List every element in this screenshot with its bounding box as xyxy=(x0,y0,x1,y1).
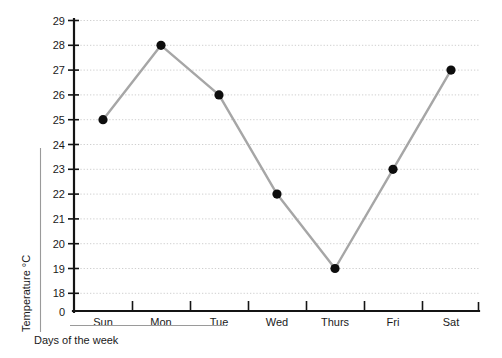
x-tick-label-fri: Fri xyxy=(387,316,400,328)
gridlines-group xyxy=(74,21,480,294)
chart-canvas: 29 28 27 26 25 24 23 22 21 20 19 18 0 Su… xyxy=(0,0,502,358)
y-axis-title: Temperature °C xyxy=(20,255,32,332)
y-tick-label-20: 20 xyxy=(53,238,65,250)
data-point-sun xyxy=(98,115,107,124)
x-tick-label-thurs: Thurs xyxy=(321,316,350,328)
x-tick-label-tue: Tue xyxy=(210,316,229,328)
y-tick-label-23: 23 xyxy=(53,163,65,175)
y-tick-label-25: 25 xyxy=(53,114,65,126)
y-axis-group: 29 28 27 26 25 24 23 22 21 20 19 18 0 xyxy=(53,15,79,319)
temperature-series-line xyxy=(103,45,451,268)
y-tick-label-zero: 0 xyxy=(59,306,65,318)
x-tick-label-sat: Sat xyxy=(443,316,460,328)
y-tick-label-21: 21 xyxy=(53,213,65,225)
axis-titles-group: Temperature °C Days of the week xyxy=(20,148,226,346)
data-point-wed xyxy=(272,190,281,199)
data-point-thurs xyxy=(330,264,339,273)
y-tick-label-24: 24 xyxy=(53,139,65,151)
y-tick-label-26: 26 xyxy=(53,89,65,101)
data-point-tue xyxy=(214,90,223,99)
y-tick-label-22: 22 xyxy=(53,188,65,200)
series-group xyxy=(98,41,455,273)
data-point-sat xyxy=(446,66,455,75)
data-point-fri xyxy=(388,165,397,174)
x-axis-group: Sun Mon Tue Wed Thurs Fri Sat xyxy=(73,301,479,328)
temperature-line-chart: 29 28 27 26 25 24 23 22 21 20 19 18 0 Su… xyxy=(0,0,502,358)
y-tick-label-28: 28 xyxy=(53,39,65,51)
y-tick-label-19: 19 xyxy=(53,263,65,275)
y-tick-label-18: 18 xyxy=(53,287,65,299)
x-tick-label-sun: Sun xyxy=(93,316,113,328)
x-tick-label-wed: Wed xyxy=(266,316,288,328)
y-tick-label-29: 29 xyxy=(53,15,65,27)
y-tick-label-27: 27 xyxy=(53,64,65,76)
x-tick-label-mon: Mon xyxy=(150,316,171,328)
x-axis-title: Days of the week xyxy=(34,334,119,346)
data-point-mon xyxy=(156,41,165,50)
